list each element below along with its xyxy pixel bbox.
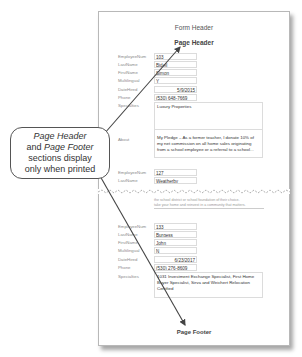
last-name-field[interactable]: Weatherby <box>154 177 197 184</box>
last-name-field[interactable]: Bidell <box>154 61 197 68</box>
first-name-label: FirstName <box>118 70 138 75</box>
phone-label: Phone <box>118 95 130 100</box>
employee-num-field[interactable]: 133 <box>154 223 197 230</box>
multilingual-label: Multilingual <box>118 248 140 253</box>
row-phone: Phone (530) 276-8609 <box>99 264 289 272</box>
first-name-field[interactable]: John <box>154 239 197 246</box>
specialties-label: Specialties <box>118 103 139 108</box>
partial-line-2: take your home and reinvest in a communi… <box>154 203 264 209</box>
first-name-label: FirstName <box>118 240 138 245</box>
specialties-field[interactable]: 1031 Investment Exchange Specialist, Fir… <box>154 272 263 298</box>
callout-line-3: sections display <box>11 153 109 164</box>
row-last-name: LastName Weatherby <box>99 177 289 185</box>
employee-num-label: EmployeeNum <box>118 224 146 229</box>
row-date-hired: DateHired 6/23/2017 <box>99 256 289 264</box>
date-hired-field[interactable]: 6/23/2017 <box>154 256 197 263</box>
phone-label: Phone <box>118 265 130 270</box>
phone-field[interactable]: (530) 276-8609 <box>154 264 197 271</box>
employee-num-label: EmployeeNum <box>118 170 146 175</box>
last-name-label: LastName <box>118 232 138 237</box>
date-hired-label: DateHired <box>118 87 137 92</box>
callout-line-1: Page Header <box>33 131 86 141</box>
row-last-name: LastName Bidell <box>99 61 289 69</box>
page-header: Page Header <box>99 39 289 46</box>
multilingual-field[interactable]: Y <box>154 77 197 84</box>
form-header: Form Header <box>99 24 289 31</box>
date-hired-label: DateHired <box>118 257 137 262</box>
print-preview-page: Form Header Page Header EmployeeNum 103 … <box>98 11 290 346</box>
callout-line-4: only when printed <box>11 164 109 175</box>
partial-about-text: the school district or school foundation… <box>154 198 264 209</box>
employee-num-field[interactable]: 127 <box>154 169 197 176</box>
row-date-hired: DateHired 5/9/2015 <box>99 86 289 94</box>
callout-note: Page Header and Page Footer sections dis… <box>10 127 110 179</box>
page-footer: Page Footer <box>99 329 289 335</box>
first-name-field[interactable]: Simon <box>154 69 197 76</box>
date-hired-field[interactable]: 5/9/2015 <box>154 86 197 93</box>
row-first-name: FirstName John <box>99 239 289 247</box>
about-field[interactable]: My Pledge – As a former teacher, I donat… <box>154 129 263 158</box>
row-employee-num: EmployeeNum 133 <box>99 223 289 231</box>
specialties-field[interactable]: Luxury Properties <box>154 102 263 130</box>
row-employee-num: EmployeeNum 127 <box>99 169 289 177</box>
about-label: About <box>118 137 129 142</box>
employee-num-label: EmployeeNum <box>118 54 146 59</box>
callout-line-2-prefix: and <box>26 142 44 152</box>
phone-field[interactable]: (530) 648-7669 <box>154 94 197 101</box>
callout-line-2-italic: Page Footer <box>44 142 94 152</box>
row-last-name: LastName Burgess <box>99 231 289 239</box>
last-name-field[interactable]: Burgess <box>154 231 197 238</box>
row-phone: Phone (530) 648-7669 <box>99 94 289 102</box>
multilingual-field[interactable]: N <box>154 247 197 254</box>
row-employee-num: EmployeeNum 103 <box>99 53 289 61</box>
employee-num-field[interactable]: 103 <box>154 53 197 60</box>
multilingual-label: Multilingual <box>118 78 140 83</box>
row-multilingual: Multilingual Y <box>99 77 289 85</box>
last-name-label: LastName <box>118 62 138 67</box>
specialties-label: Specialties <box>118 274 139 279</box>
row-multilingual: Multilingual N <box>99 247 289 255</box>
row-first-name: FirstName Simon <box>99 69 289 77</box>
last-name-label: LastName <box>118 178 138 183</box>
page-break-tear-line <box>98 189 290 194</box>
